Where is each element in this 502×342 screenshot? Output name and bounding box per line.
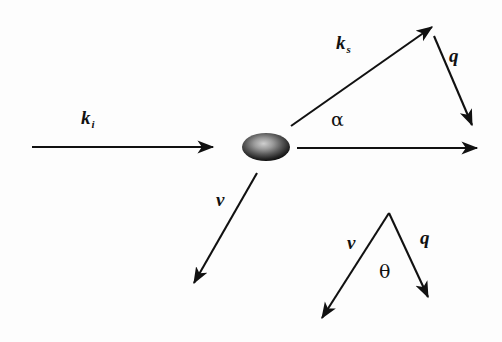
diagram-canvas — [0, 0, 502, 342]
label-k-scattered: ks — [336, 33, 350, 52]
vector-k-scattered — [291, 27, 432, 126]
vector-v-velocity — [194, 173, 257, 283]
label-k-incident-subscript: i — [92, 118, 95, 130]
label-q-triangle-right: q — [420, 228, 430, 247]
label-k-incident: ki — [81, 108, 94, 127]
label-theta-angle: θ — [379, 262, 390, 281]
label-k-scattered-symbol: k — [336, 32, 346, 53]
scattering-particle — [242, 133, 290, 161]
label-q-upper: q — [449, 46, 459, 65]
vector-q-triangle-right — [389, 213, 428, 297]
label-k-incident-symbol: k — [81, 107, 91, 128]
scattering-diagram: ki ks q v v q α θ — [0, 0, 502, 342]
label-v-velocity: v — [216, 190, 224, 209]
label-alpha-angle: α — [331, 110, 344, 129]
label-v-triangle-left: v — [347, 233, 355, 252]
label-k-scattered-subscript: s — [347, 43, 351, 55]
